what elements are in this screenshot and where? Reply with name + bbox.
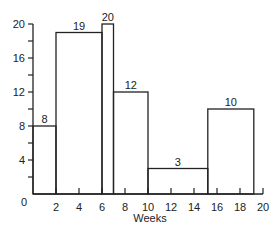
x-tick-label: 4: [76, 201, 82, 213]
y-axis-ticks: 48121620: [13, 18, 33, 177]
x-axis-ticks: 02468101214161820: [21, 188, 269, 213]
y-tick-label: 20: [13, 18, 25, 30]
histogram-bar: [33, 126, 56, 194]
histogram-bar: [114, 92, 149, 194]
x-axis-label: Weeks: [133, 212, 167, 224]
bar-value-label: 3: [175, 156, 181, 168]
y-tick-label: 16: [13, 52, 25, 64]
bar-value-label: 8: [41, 113, 47, 125]
x-tick-label: 16: [211, 201, 223, 213]
x-tick-label: 6: [99, 201, 105, 213]
histogram-bar: [102, 24, 114, 194]
x-tick-label: 2: [53, 201, 59, 213]
x-tick-label: 0: [21, 196, 27, 208]
histogram-bar: [208, 109, 254, 194]
bar-value-label: 12: [125, 79, 137, 91]
bar-value-label: 19: [73, 20, 85, 32]
bar-value-label: 20: [102, 11, 114, 23]
y-tick-label: 8: [19, 120, 25, 132]
x-tick-label: 14: [188, 201, 200, 213]
x-tick-label: 18: [234, 201, 246, 213]
bar-value-label: 10: [225, 96, 237, 108]
histogram-bar: [148, 169, 208, 195]
histogram-bars: [33, 24, 254, 194]
x-tick-label: 20: [257, 201, 269, 213]
x-tick-label: 8: [122, 201, 128, 213]
y-tick-label: 4: [19, 154, 25, 166]
histogram-chart: 8192012310 02468101214161820 48121620 We…: [0, 0, 277, 234]
histogram-bar: [56, 33, 102, 195]
y-tick-label: 12: [13, 86, 25, 98]
